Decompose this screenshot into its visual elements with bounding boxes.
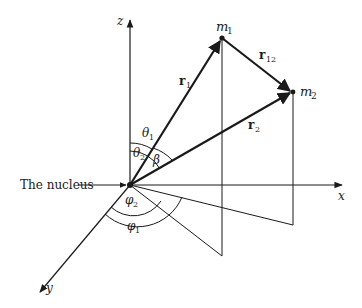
r12-label: r 12	[259, 48, 276, 64]
y-axis-label: y	[45, 281, 53, 295]
r2-projection	[130, 185, 293, 225]
vector-r12	[222, 38, 290, 91]
y-axis	[40, 185, 130, 292]
svg-text:1: 1	[227, 26, 233, 36]
r2-label: r 2	[248, 118, 260, 134]
beta-label: β	[152, 153, 160, 167]
nucleus-label: The nucleus	[20, 178, 94, 192]
m2-label: m 2	[300, 84, 317, 101]
phi2-label: φ 2	[125, 193, 138, 209]
svg-text:r: r	[259, 48, 266, 62]
svg-text:r: r	[248, 118, 255, 132]
svg-text:r: r	[179, 74, 186, 88]
phi1-label: φ 1	[127, 219, 140, 235]
svg-text:2: 2	[133, 200, 138, 209]
r1-label: r 1	[179, 74, 191, 90]
vector-r1	[130, 41, 220, 185]
theta1-label: θ 1	[142, 126, 154, 142]
svg-text:2: 2	[311, 91, 317, 101]
r1-projection	[130, 185, 222, 256]
svg-text:1: 1	[186, 81, 191, 90]
nucleus-point	[127, 182, 133, 188]
x-axis-label: x	[338, 189, 345, 203]
svg-text:12: 12	[266, 55, 276, 64]
svg-text:2: 2	[140, 153, 145, 162]
svg-text:2: 2	[255, 125, 260, 134]
theta2-label: θ 2	[133, 146, 145, 162]
mass-point-m1	[219, 35, 224, 40]
m1-label: m 1	[216, 19, 233, 36]
diagram-canvas: z x y The nucleus m 1 m 2 r 1 r 2 r 12 θ…	[0, 0, 362, 308]
z-axis-label: z	[116, 14, 124, 28]
svg-text:1: 1	[135, 226, 140, 235]
mass-point-m2	[291, 90, 296, 95]
svg-text:1: 1	[149, 133, 154, 142]
